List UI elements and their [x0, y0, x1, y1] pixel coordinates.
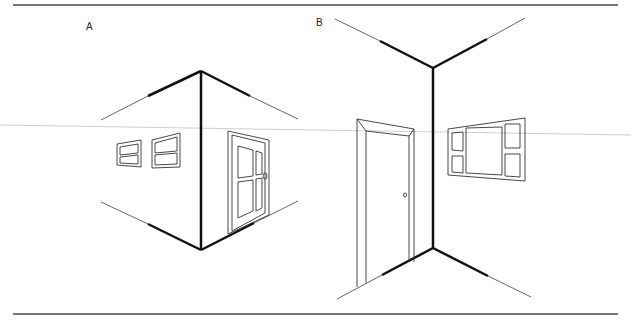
- a-bottom-left-edge: [148, 224, 201, 250]
- a-window-2: [152, 133, 180, 168]
- b-floor-right-edge: [433, 248, 488, 276]
- b-floor-left-edge: [382, 248, 433, 275]
- figure-canvas: [0, 0, 631, 324]
- a-top-left-edge: [148, 71, 201, 96]
- a-top-right-edge: [201, 71, 250, 96]
- b-ceiling-right-edge: [433, 39, 487, 68]
- a-bottom-right-edge: [201, 223, 254, 250]
- b-door-knob: [404, 193, 407, 197]
- horizon-line: [0, 125, 631, 135]
- b-window: [448, 118, 525, 181]
- panel-a-drawing: [101, 71, 298, 250]
- panel-b-drawing: [335, 18, 531, 299]
- perspective-figure: A B: [0, 0, 631, 324]
- a-window-1: [117, 140, 141, 167]
- b-ceiling-left-edge: [380, 41, 433, 68]
